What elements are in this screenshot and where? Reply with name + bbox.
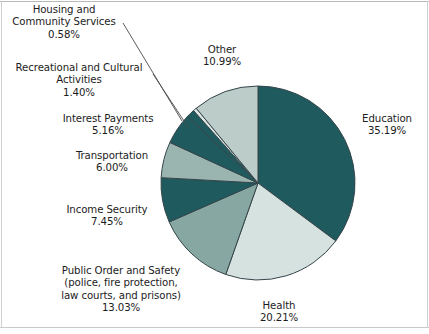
slice-value-other: 10.99%: [192, 56, 252, 68]
slice-value-housing: 0.58%: [6, 29, 122, 41]
pie-slice-group: [161, 86, 355, 280]
slice-label-recreational: Recreational and Cultural Activities 1.4…: [6, 62, 152, 99]
slice-value-education: 35.19%: [352, 125, 422, 137]
slice-label-health: Health 20.21%: [244, 300, 314, 325]
slice-label-interest: Interest Payments 5.16%: [48, 113, 168, 138]
slice-label-housing-line1: Housing and: [33, 4, 96, 15]
slice-label-transportation-line1: Transportation: [76, 150, 148, 161]
slice-label-transportation: Transportation 6.00%: [58, 150, 166, 175]
slice-label-recreational-line1: Recreational and Cultural: [16, 62, 143, 73]
slice-label-education: Education 35.19%: [352, 113, 422, 138]
slice-label-housing: Housing and Community Services 0.58%: [6, 4, 122, 41]
slice-value-income-security: 7.45%: [52, 216, 162, 228]
slice-label-other: Other 10.99%: [192, 44, 252, 69]
slice-label-recreational-line2: Activities: [56, 74, 101, 85]
slice-label-public-order-line2: (police, fire protection,: [64, 277, 177, 288]
slice-label-income-security: Income Security 7.45%: [52, 204, 162, 229]
slice-label-public-order-line3: law courts, and prisons): [61, 290, 181, 301]
slice-label-interest-line1: Interest Payments: [63, 113, 154, 124]
slice-value-public-order: 13.03%: [46, 302, 196, 314]
slice-label-other-line1: Other: [208, 44, 236, 55]
slice-value-recreational: 1.40%: [6, 87, 152, 99]
slice-value-transportation: 6.00%: [58, 162, 166, 174]
slice-value-health: 20.21%: [244, 312, 314, 324]
slice-label-health-line1: Health: [263, 300, 296, 311]
slice-label-public-order: Public Order and Safety (police, fire pr…: [46, 265, 196, 315]
pie-chart-figure: Housing and Community Services 0.58% Rec…: [0, 0, 429, 334]
slice-label-housing-line2: Community Services: [12, 16, 115, 27]
slice-label-income-security-line1: Income Security: [66, 204, 147, 215]
slice-label-public-order-line1: Public Order and Safety: [62, 265, 180, 276]
slice-label-education-line1: Education: [362, 113, 412, 124]
slice-value-interest: 5.16%: [48, 125, 168, 137]
